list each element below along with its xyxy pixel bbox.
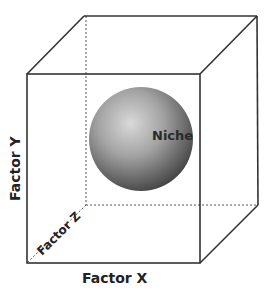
- edge-top-right-depth: [200, 16, 257, 74]
- axis-label-y: Factor Y: [7, 135, 23, 201]
- sphere-label: Niche: [152, 128, 193, 143]
- axis-label-z: Factor Z: [34, 209, 83, 258]
- axis-label-x: Factor X: [82, 270, 148, 286]
- niche-cube-diagram: Niche Factor X Factor Y Factor Z: [0, 0, 270, 291]
- edge-top-left-depth: [27, 16, 84, 74]
- edge-back-right-vertical: [257, 16, 258, 205]
- edge-bottom-right-depth: [200, 205, 258, 263]
